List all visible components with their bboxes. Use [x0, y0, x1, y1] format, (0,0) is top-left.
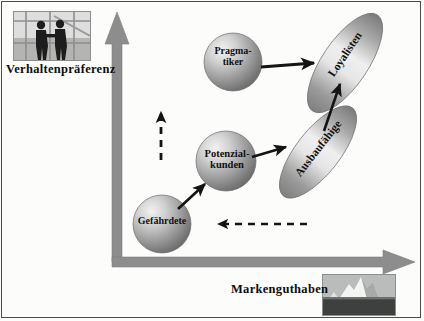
axis-horizontal — [112, 250, 415, 274]
vertical-axis-label: Verhaltenpräferenz — [6, 62, 116, 77]
axis-vertical — [105, 12, 129, 262]
arrow-gefaehrdete-to-potenzial — [178, 184, 205, 209]
node-pragmatiker[interactable] — [204, 33, 262, 91]
arrow-pragmatiker-to-loyalisten — [261, 63, 314, 67]
handshake-photo — [13, 11, 91, 61]
arrow-potenzial-to-ausbaufaehige — [252, 147, 286, 157]
node-potenzialkunden[interactable] — [196, 131, 256, 191]
iceberg-photo — [322, 274, 396, 316]
horizontal-axis-label: Markenguthaben — [231, 282, 328, 297]
diagram-canvas: Verhaltenpräferenz Markenguthaben Pragma… — [0, 0, 424, 321]
